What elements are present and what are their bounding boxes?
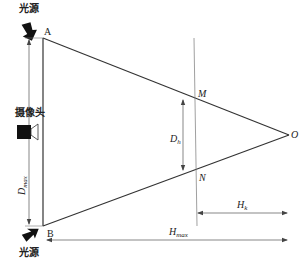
light-source-bottom-label: 光源 — [18, 246, 39, 258]
line-b-o — [43, 135, 289, 226]
dh-label: Dh — [169, 133, 181, 146]
light-source-top-icon — [17, 19, 38, 40]
point-m-label: M — [197, 88, 207, 99]
mn-vertical-line — [194, 38, 197, 226]
camera-icon — [17, 124, 38, 140]
diagram-canvas: 光源 A Dmax 摄像头 B 光源 M N Dh O Hk Hmax — [0, 0, 307, 263]
hk-label: Hk — [236, 199, 248, 212]
line-a-o — [43, 38, 289, 135]
dmax-label: Dmax — [16, 175, 29, 196]
point-n-label: N — [198, 172, 207, 183]
point-b-label: B — [47, 228, 54, 239]
point-a-label: A — [44, 26, 52, 37]
light-source-bottom-icon — [20, 225, 41, 242]
point-o-label: O — [291, 129, 298, 140]
camera-label: 摄像头 — [15, 106, 45, 118]
light-source-top-label: 光源 — [18, 2, 39, 14]
hmax-label: Hmax — [168, 226, 189, 239]
